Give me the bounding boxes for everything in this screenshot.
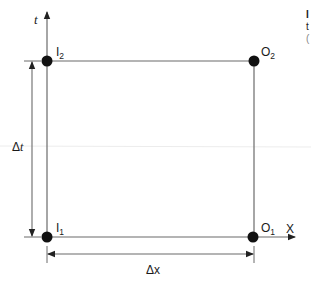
point-o1-label: O1 xyxy=(261,221,275,237)
cropped-text-fragment: I xyxy=(306,10,309,20)
point-i1-dot xyxy=(42,232,53,243)
point-i1-label: I1 xyxy=(56,221,64,237)
delta-t-label: Δt xyxy=(12,140,24,154)
point-i2-label: I2 xyxy=(56,45,64,61)
point-i2-dot xyxy=(42,56,53,67)
cropped-text-fragment: ( xyxy=(306,34,309,44)
point-o2-label: O2 xyxy=(261,45,275,61)
delta-x-label: Δx xyxy=(146,263,160,277)
point-o2-dot xyxy=(249,56,260,67)
t-axis-label: t xyxy=(34,12,38,27)
spacetime-diagram: t X I2 O2 I1 O1 Δt Δx xyxy=(0,0,311,285)
cropped-text-fragment: t xyxy=(306,22,309,32)
point-o1-dot xyxy=(248,232,259,243)
x-axis-label: X xyxy=(286,222,294,236)
